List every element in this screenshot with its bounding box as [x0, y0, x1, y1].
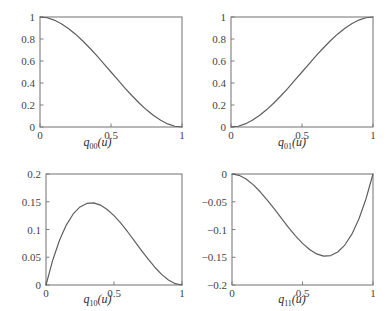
chart-panel-q00: 00.20.40.60.8100.51q00(u): [0, 0, 195, 156]
y-tick-label: 0.2: [212, 99, 226, 111]
y-tick-label: −0.1: [207, 224, 227, 236]
y-tick-label: 0.6: [212, 55, 226, 67]
chart-panel-q10: 00.050.10.150.200.51q10(u): [0, 156, 195, 311]
axis-title-base: q: [84, 292, 90, 306]
axis-title-argument: (u): [292, 292, 306, 306]
y-tick-label: −0.2: [207, 279, 227, 291]
plot-q00: 00.20.40.60.8100.51: [0, 0, 195, 156]
plot-q01: 00.20.40.60.8100.51: [195, 0, 389, 156]
axis-frame: [46, 174, 182, 285]
y-tick-label: 0.8: [21, 33, 35, 45]
y-tick-label: 0: [222, 168, 228, 180]
axis-frame: [232, 174, 373, 285]
data-curve: [40, 17, 182, 127]
plot-q10: 00.050.10.150.200.51: [0, 156, 195, 311]
x-axis-title-q00: q00(u): [0, 135, 195, 150]
y-tick-label: 0.4: [212, 77, 226, 89]
y-tick-label: 0.4: [21, 77, 35, 89]
y-tick-label: 0.8: [212, 33, 226, 45]
y-tick-label: 0.2: [21, 99, 35, 111]
y-tick-label: 0: [36, 279, 42, 291]
data-curve: [46, 203, 182, 285]
axis-title-argument: (u): [292, 135, 306, 149]
y-tick-label: 1: [221, 11, 227, 23]
data-curve: [231, 17, 373, 127]
y-tick-label: 0.1: [27, 224, 41, 236]
axis-title-subscript: 11: [284, 299, 292, 308]
y-tick-label: 0: [30, 121, 36, 133]
data-curve: [232, 174, 373, 256]
axis-title-subscript: 01: [284, 142, 292, 151]
y-tick-label: −0.15: [202, 251, 228, 263]
y-tick-label: 0.6: [21, 55, 35, 67]
y-tick-label: 0.15: [22, 196, 42, 208]
plot-q11: 0−0.05−0.1−0.15−0.200.51: [195, 156, 389, 311]
chart-panel-q11: 0−0.05−0.1−0.15−0.200.51q11(u): [195, 156, 389, 311]
y-tick-label: −0.05: [202, 196, 228, 208]
y-tick-label: 0.05: [22, 251, 42, 263]
y-tick-label: 0.2: [27, 168, 41, 180]
axis-title-argument: (u): [98, 135, 112, 149]
axis-title-base: q: [84, 135, 90, 149]
x-axis-title-q10: q10(u): [0, 292, 195, 307]
hermite-basis-figure: 00.20.40.60.8100.51q00(u)00.20.40.60.810…: [0, 0, 389, 311]
x-axis-title-q01: q01(u): [195, 135, 389, 150]
x-axis-title-q11: q11(u): [195, 292, 389, 307]
chart-panel-q01: 00.20.40.60.8100.51q01(u): [195, 0, 389, 156]
y-tick-label: 0: [221, 121, 227, 133]
axis-title-subscript: 10: [90, 299, 98, 308]
y-tick-label: 1: [30, 11, 36, 23]
axis-title-argument: (u): [98, 292, 112, 306]
axis-title-subscript: 00: [90, 142, 98, 151]
